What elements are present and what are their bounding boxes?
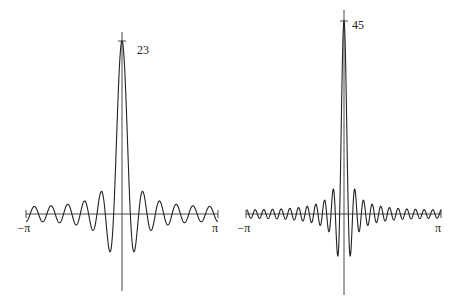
x-tick-label-neg-pi-right: −π — [238, 221, 251, 235]
x-tick-label-neg-pi-left: −π — [18, 221, 31, 235]
x-tick-label-pi-left: π — [212, 221, 218, 235]
chart-left: 23 −π π — [18, 32, 218, 291]
dirichlet-kernel-figure: 23 −π π 45 −π π — [0, 0, 460, 307]
peak-label-left: 23 — [137, 43, 149, 57]
peak-label-right: 45 — [352, 18, 364, 32]
chart-right: 45 −π π — [238, 10, 442, 295]
x-tick-label-pi-right: π — [435, 221, 441, 235]
